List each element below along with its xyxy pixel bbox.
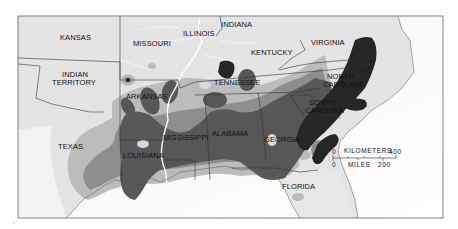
scale-mi-label: MILES — [348, 161, 371, 168]
label-alabama: ALABAMA — [212, 129, 248, 138]
label-texas: TEXAS — [58, 142, 83, 151]
scale-mi-end: 200 — [378, 161, 391, 168]
label-florida: FLORIDA — [282, 182, 315, 191]
label-missouri: MISSOURI — [133, 39, 171, 48]
label-indiana: INDIANA — [221, 20, 252, 29]
label-kentucky: KENTUCKY — [251, 48, 293, 57]
label-georgia: GEORGIA — [264, 135, 300, 144]
label-virginia: VIRGINIA — [311, 38, 345, 47]
label-arkansas: ARKANSAS — [126, 92, 168, 101]
scale-km-end: 400 — [389, 148, 402, 155]
label-tennessee: TENNESSEE — [214, 78, 260, 87]
map: KANSAS MISSOURI ILLINOIS INDIANA KENTUCK… — [0, 0, 458, 229]
scale-mi-start: 0 — [332, 161, 336, 168]
scale-km-start: 0 — [332, 148, 336, 155]
label-south-carolina-2: CAROLINA — [305, 106, 344, 115]
map-canvas: KANSAS MISSOURI ILLINOIS INDIANA KENTUCK… — [0, 0, 458, 229]
label-illinois: ILLINOIS — [183, 29, 215, 38]
label-kansas: KANSAS — [60, 33, 91, 42]
scale-km-label: KILOMETERS — [344, 147, 392, 154]
label-indian-territory-2: TERRITORY — [52, 78, 96, 87]
label-mississippi: MISSISSIPPI — [163, 133, 209, 142]
label-louisiana: LOUISIANA — [123, 151, 164, 160]
stray-mark — [13, 222, 14, 223]
label-north-carolina-2: CAROLINA — [323, 80, 362, 89]
